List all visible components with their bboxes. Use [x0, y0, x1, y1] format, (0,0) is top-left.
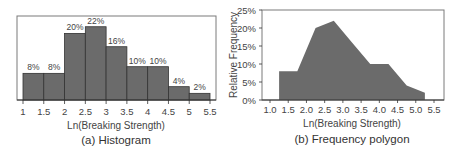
- x-tick-label: 4.0: [373, 104, 386, 115]
- histogram-bar: [106, 47, 127, 100]
- x-tick-label: 5.5: [427, 104, 440, 115]
- bar-value-label: 4%: [173, 76, 186, 86]
- polygon-y-axis-title: Relative Frequency: [228, 12, 239, 98]
- x-tick-label: 1.5: [282, 104, 295, 115]
- polygon-caption: (b) Frequency polygon: [294, 133, 409, 145]
- bar-value-label: 2%: [193, 82, 206, 92]
- y-tick-label: 15%: [237, 41, 257, 52]
- histogram-bar: [44, 73, 65, 100]
- x-tick-label: 5: [187, 106, 192, 117]
- y-tick-label: 25%: [237, 5, 257, 16]
- histogram-x-axis-title: Ln(Breaking Strength): [67, 120, 165, 131]
- histogram-bar: [189, 93, 210, 100]
- histogram-bar: [23, 73, 44, 100]
- x-tick-label: 4: [145, 106, 150, 117]
- bar-value-label: 20%: [66, 22, 83, 32]
- histogram-bar: [127, 67, 148, 100]
- x-tick-label: 5.0: [409, 104, 422, 115]
- x-tick-label: 1: [20, 106, 25, 117]
- figure: 8%8%20%22%16%10%10%4%2% 11.522.533.544.5…: [0, 0, 460, 154]
- histogram-chart: 8%8%20%22%16%10%10%4%2% 11.522.533.544.5…: [17, 16, 217, 146]
- y-tick-label: 5%: [242, 77, 256, 88]
- x-tick-label: 3.0: [336, 104, 349, 115]
- x-tick-label: 3.5: [120, 106, 133, 117]
- x-tick-label: 4.5: [391, 104, 404, 115]
- x-tick-label: 1.5: [37, 106, 50, 117]
- bar-value-label: 8%: [27, 62, 40, 72]
- histogram-bar: [148, 67, 169, 100]
- histogram-bar: [85, 27, 106, 100]
- polygon-y-ticks: 0%5%10%15%20%25%: [237, 5, 262, 106]
- polygon-x-ticks: 1.01.52.02.53.03.54.04.55.05.5: [263, 100, 440, 115]
- x-tick-label: 2.0: [300, 104, 313, 115]
- histogram-caption: (a) Histogram: [81, 134, 151, 146]
- x-tick-label: 5.5: [203, 106, 216, 117]
- x-tick-label: 2: [62, 106, 67, 117]
- y-tick-label: 20%: [237, 23, 257, 34]
- x-tick-label: 2.5: [318, 104, 331, 115]
- x-tick-label: 3.5: [355, 104, 368, 115]
- frequency-polygon-area: [279, 21, 425, 100]
- bar-value-label: 10%: [150, 56, 167, 66]
- y-tick-label: 0%: [242, 95, 256, 106]
- x-tick-label: 4.5: [162, 106, 175, 117]
- bar-value-label: 8%: [48, 62, 61, 72]
- histogram-bar: [168, 87, 189, 100]
- histogram-x-ticks: 11.522.533.544.555.5: [20, 100, 216, 117]
- x-tick-label: 3: [103, 106, 108, 117]
- bar-value-label: 22%: [87, 16, 104, 26]
- bar-value-label: 16%: [108, 36, 125, 46]
- histogram-bar: [65, 33, 86, 100]
- polygon-x-axis-title: Ln(Breaking Strength): [303, 118, 401, 129]
- bar-value-label: 10%: [129, 56, 146, 66]
- x-tick-label: 2.5: [79, 106, 92, 117]
- frequency-polygon-chart: 1.01.52.02.53.03.54.04.55.05.5 0%5%10%15…: [228, 5, 444, 146]
- y-tick-label: 10%: [237, 59, 257, 70]
- x-tick-label: 1.0: [263, 104, 276, 115]
